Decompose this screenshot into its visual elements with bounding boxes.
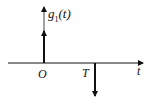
axis-label-t: t bbox=[137, 65, 140, 77]
origin-label: O bbox=[38, 68, 47, 80]
function-argument: (t) bbox=[59, 6, 71, 21]
impulse-diagram bbox=[0, 0, 152, 101]
impulse-time-label: T bbox=[82, 67, 89, 79]
function-label: g1(t) bbox=[48, 7, 71, 24]
